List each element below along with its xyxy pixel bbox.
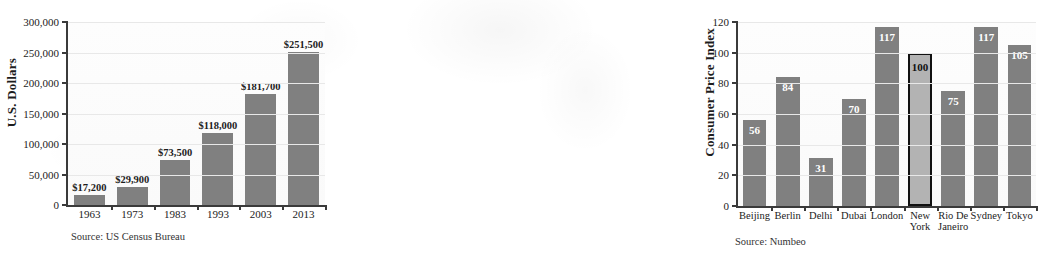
gridline bbox=[68, 175, 325, 176]
bar-value-label: 100 bbox=[910, 61, 930, 73]
bar-value-label: $251,500 bbox=[284, 39, 323, 50]
bar-2013[interactable]: $251,500 bbox=[288, 52, 319, 205]
bar-value-label: 31 bbox=[809, 162, 833, 174]
bar-rio-de-janeiro[interactable]: 75 bbox=[941, 91, 965, 206]
x-axis-tick bbox=[111, 205, 113, 210]
y-axis-tick bbox=[732, 82, 738, 84]
gridline bbox=[68, 144, 325, 145]
chart-consumer-price-index: Consumer Price Index 5684317011710075117… bbox=[350, 0, 703, 253]
y-axis-tick bbox=[62, 204, 68, 206]
gridline bbox=[738, 53, 1036, 54]
x-axis-labels-right: BeijingBerlinDelhiDubaiLondonNew YorkRio… bbox=[738, 206, 1036, 233]
y-axis-tick-label: 0 bbox=[724, 200, 730, 212]
x-axis-tick bbox=[197, 205, 199, 210]
y-axis-tick-label: 60 bbox=[718, 108, 729, 120]
gridline bbox=[68, 114, 325, 115]
y-axis-tick-label: 150,000 bbox=[23, 108, 59, 120]
x-axis-tick bbox=[904, 206, 906, 211]
y-axis-tick-label: 250,000 bbox=[23, 47, 59, 59]
x-axis-tick-label: 2013 bbox=[282, 209, 325, 221]
x-axis-tick bbox=[154, 205, 156, 210]
x-axis-tick bbox=[804, 206, 806, 211]
y-axis-tick-label: 100,000 bbox=[23, 138, 59, 150]
x-axis-tick-label: Sydney bbox=[970, 210, 1003, 233]
y-axis-tick-label: 100 bbox=[713, 47, 730, 59]
x-axis-tick bbox=[239, 205, 241, 210]
gridline bbox=[738, 114, 1036, 115]
x-axis-tick bbox=[870, 206, 872, 211]
x-axis-tick-label: Tokyo bbox=[1003, 210, 1036, 233]
gridline bbox=[68, 83, 325, 84]
bar-value-label: 117 bbox=[974, 31, 998, 43]
bar-1973[interactable]: $29,900 bbox=[117, 187, 148, 205]
x-axis-tick bbox=[325, 205, 327, 210]
x-axis-tick-label: 1963 bbox=[68, 209, 111, 221]
x-axis-tick bbox=[970, 206, 972, 211]
x-axis-tick-label: Beijing bbox=[738, 210, 771, 233]
bar-1963[interactable]: $17,200 bbox=[74, 195, 105, 205]
bar-value-label: 56 bbox=[743, 124, 767, 136]
bar-value-label: $17,200 bbox=[72, 182, 106, 193]
y-axis-tick-label: 0 bbox=[54, 199, 60, 211]
y-axis-tick bbox=[732, 113, 738, 115]
x-axis-tick bbox=[1003, 206, 1005, 211]
bar-2003[interactable]: $181,700 bbox=[245, 94, 276, 205]
gridline bbox=[68, 53, 325, 54]
bar-value-label: 75 bbox=[941, 95, 965, 107]
y-axis-tick bbox=[732, 205, 738, 207]
gridline bbox=[68, 22, 325, 23]
bar-value-label: $118,000 bbox=[198, 120, 237, 131]
gridline bbox=[738, 175, 1036, 176]
bar-new-york[interactable]: 100 bbox=[908, 53, 932, 206]
chart-median-home-price: U.S. Dollars $17,200$29,900$73,500$118,0… bbox=[0, 0, 350, 253]
y-axis-tick bbox=[732, 52, 738, 54]
x-axis-tick-label: 2003 bbox=[239, 209, 282, 221]
y-axis-tick-label: 50,000 bbox=[29, 169, 59, 181]
source-caption-left: Source: US Census Bureau bbox=[71, 231, 185, 242]
bar-value-label: 117 bbox=[875, 31, 899, 43]
y-axis-tick-label: 40 bbox=[718, 139, 729, 151]
bar-value-label: $73,500 bbox=[158, 147, 192, 158]
y-axis-tick bbox=[732, 174, 738, 176]
gridline bbox=[738, 145, 1036, 146]
x-axis-tick bbox=[282, 205, 284, 210]
x-axis-tick bbox=[837, 206, 839, 211]
y-axis-tick bbox=[62, 52, 68, 54]
y-axis-tick-label: 300,000 bbox=[23, 16, 59, 28]
bar-value-label: 70 bbox=[842, 103, 866, 115]
x-axis-tick-label: Dubai bbox=[837, 210, 870, 233]
bar-beijing[interactable]: 56 bbox=[743, 120, 767, 206]
x-axis-tick bbox=[937, 206, 939, 211]
y-axis-tick-label: 20 bbox=[718, 169, 729, 181]
gridline bbox=[738, 83, 1036, 84]
x-axis-tick-label: 1993 bbox=[196, 209, 239, 221]
x-axis-tick-label: Delhi bbox=[804, 210, 837, 233]
y-axis-tick bbox=[732, 144, 738, 146]
y-axis-tick bbox=[62, 21, 68, 23]
y-axis-tick-label: 200,000 bbox=[23, 77, 59, 89]
x-axis-tick-label: London bbox=[870, 210, 903, 233]
y-axis-tick bbox=[732, 21, 738, 23]
x-axis-labels-left: 196319731983199320032013 bbox=[68, 205, 325, 221]
bar-berlin[interactable]: 84 bbox=[776, 77, 800, 206]
x-axis-tick-label: New York bbox=[904, 210, 937, 233]
y-axis-tick bbox=[62, 143, 68, 145]
bar-1983[interactable]: $73,500 bbox=[160, 160, 191, 205]
y-axis-tick-label: 80 bbox=[718, 77, 729, 89]
y-axis-tick bbox=[62, 82, 68, 84]
bar-delhi[interactable]: 31 bbox=[809, 158, 833, 206]
x-axis-tick-label: 1973 bbox=[111, 209, 154, 221]
x-axis-tick bbox=[771, 206, 773, 211]
bar-tokyo[interactable]: 105 bbox=[1008, 45, 1032, 206]
x-axis-tick-label: Rio De Janeiro bbox=[937, 210, 970, 233]
plot-area-right: 5684317011710075117105 BeijingBerlinDelh… bbox=[736, 22, 1036, 208]
gridline bbox=[738, 22, 1036, 23]
x-axis-tick-label: Berlin bbox=[771, 210, 804, 233]
y-axis-tick bbox=[62, 174, 68, 176]
bar-value-label: 105 bbox=[1008, 49, 1032, 61]
plot-area-left: $17,200$29,900$73,500$118,000$181,700$25… bbox=[66, 22, 325, 207]
source-caption-right: Source: Numbeo bbox=[735, 236, 806, 247]
y-axis-tick-label: 120 bbox=[713, 16, 730, 28]
y-axis-tick bbox=[62, 113, 68, 115]
